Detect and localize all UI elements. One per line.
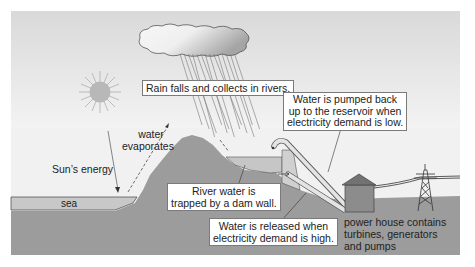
water-released-label: Water is released when electricity deman…	[209, 218, 338, 246]
sun-energy-label: Sun’s energy	[52, 163, 113, 175]
water-line-2: evaporates	[122, 140, 174, 152]
released-line-1: Water is released when	[213, 220, 334, 232]
river-line-1: River water is	[171, 185, 277, 197]
river-line-2: trapped by a dam wall.	[171, 197, 277, 209]
water-evaporates-label: water evaporates	[122, 128, 174, 152]
sea-label: sea	[61, 198, 77, 210]
powerhouse-line-3: and pumps	[344, 240, 446, 252]
rain-label: Rain falls and collects in rivers.	[142, 80, 294, 96]
sun-icon	[79, 71, 121, 113]
released-line-2: electricity demand is high.	[213, 232, 334, 244]
power-house-label: power house contains turbines, generator…	[344, 216, 446, 252]
power-house	[345, 185, 374, 212]
powerhouse-line-2: turbines, generators	[344, 228, 446, 240]
river-water-label: River water is trapped by a dam wall.	[167, 183, 281, 211]
powerhouse-line-1: power house contains	[344, 216, 446, 228]
pipe-outlet-dot	[272, 147, 275, 150]
cloud-icon	[139, 24, 249, 56]
pumped-back-line-3: electricity demand is low.	[287, 117, 403, 129]
pumped-back-label: Water is pumped back up to the reservoir…	[283, 92, 407, 131]
pumped-back-line-1: Water is pumped back	[287, 94, 403, 106]
water-line-1: water	[122, 128, 174, 140]
